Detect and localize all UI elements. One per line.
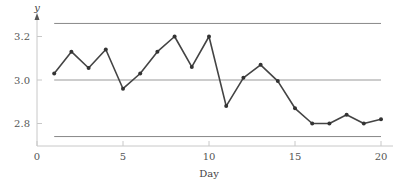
control-chart: 051015202.83.03.2 y Day (0, 0, 407, 191)
data-point (190, 65, 194, 69)
data-point (379, 117, 383, 121)
data-point (52, 72, 56, 76)
data-point (293, 106, 297, 110)
data-point (224, 104, 228, 108)
data-point (327, 122, 331, 126)
data-point (259, 63, 263, 67)
x-tick-label: 5 (120, 151, 126, 162)
data-point (241, 76, 245, 80)
data-point (345, 113, 349, 117)
data-point (362, 122, 366, 126)
y-tick-label: 2.8 (14, 118, 30, 129)
data-point (207, 35, 211, 39)
data-point (69, 50, 73, 54)
x-axis-label: Day (199, 168, 219, 179)
y-axis-label: y (33, 2, 40, 13)
data-point (276, 79, 280, 83)
data-point (155, 50, 159, 54)
axes: 051015202.83.03.2 (14, 13, 393, 162)
data-point (138, 72, 142, 76)
reference-lines (54, 23, 381, 136)
y-tick-label: 3.0 (14, 75, 30, 86)
data-point (173, 35, 177, 39)
x-tick-label: 10 (203, 151, 216, 162)
data-point (104, 48, 108, 52)
data-point (310, 122, 314, 126)
x-tick-label: 15 (289, 151, 302, 162)
y-tick-label: 3.2 (14, 31, 30, 42)
x-tick-label: 0 (34, 151, 40, 162)
y-axis-arrow-icon (35, 13, 40, 20)
data-point (87, 66, 91, 70)
x-tick-label: 20 (375, 151, 388, 162)
data-point (121, 87, 125, 91)
